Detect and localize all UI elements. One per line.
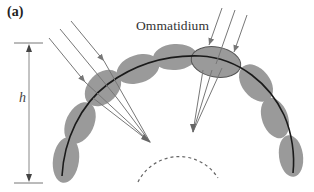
compound-eye-diagram: (a) Ommatidium h — [0, 0, 314, 192]
height-label: h — [19, 90, 26, 106]
ommatidium-label: Ommatidium — [136, 18, 209, 34]
dashed-focal-circle — [138, 157, 218, 182]
panel-label: (a) — [7, 4, 23, 20]
height-bracket — [14, 43, 43, 183]
